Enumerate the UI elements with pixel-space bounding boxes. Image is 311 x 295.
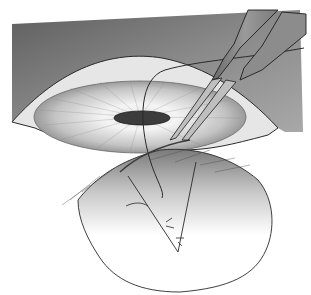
pupil [114, 111, 170, 125]
tissue-flap [78, 149, 272, 292]
illustration-svg [0, 0, 311, 295]
surgical-illustration [0, 0, 311, 295]
